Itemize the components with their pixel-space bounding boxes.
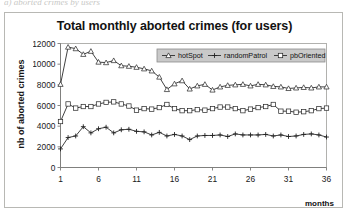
- data-point-marker: [119, 127, 124, 132]
- legend-label-pbOriented[interactable]: pbOriented: [290, 51, 326, 60]
- y-tick-label: 4000: [37, 121, 56, 131]
- data-point-marker: [89, 104, 93, 108]
- data-point-marker: [127, 104, 131, 108]
- series-randomPatrol: [58, 124, 329, 151]
- data-point-marker: [172, 106, 176, 110]
- data-point-marker: [210, 133, 215, 138]
- y-tick-label: 12000: [33, 39, 56, 49]
- x-tick-label: 16: [170, 174, 180, 184]
- data-point-marker: [286, 109, 290, 113]
- data-point-marker: [256, 133, 261, 138]
- data-point-marker: [58, 119, 62, 123]
- legend-label-hotSpot[interactable]: hotSpot: [178, 51, 203, 60]
- data-point-marker: [241, 108, 245, 112]
- x-tick-label: 31: [284, 174, 294, 184]
- x-tick-label: 11: [132, 174, 141, 184]
- data-point-marker: [188, 108, 192, 112]
- data-point-marker: [294, 134, 299, 139]
- data-point-marker: [302, 110, 306, 114]
- y-tick-label: 6000: [37, 101, 56, 111]
- data-point-marker: [157, 105, 161, 109]
- data-point-marker: [96, 126, 101, 131]
- data-point-marker: [218, 133, 223, 138]
- data-point-marker: [74, 106, 78, 110]
- data-point-marker: [172, 132, 177, 137]
- data-point-marker: [195, 107, 199, 111]
- data-point-marker: [180, 134, 185, 139]
- data-point-marker: [256, 105, 260, 109]
- data-point-marker: [210, 106, 214, 110]
- data-point-marker: [324, 106, 328, 110]
- y-tick-label: 0: [51, 163, 56, 173]
- data-point-marker: [149, 133, 154, 138]
- data-point-marker: [317, 133, 322, 138]
- data-point-marker: [218, 105, 222, 109]
- data-point-marker: [66, 102, 70, 106]
- data-point-marker: [226, 105, 230, 109]
- data-point-marker: [88, 49, 93, 54]
- series-pbOriented: [58, 100, 328, 124]
- data-point-marker: [279, 109, 283, 113]
- y-tick-label: 2000: [37, 142, 56, 152]
- data-point-marker: [195, 134, 200, 139]
- data-point-marker: [134, 129, 139, 134]
- data-point-marker: [58, 82, 63, 87]
- data-point-marker: [203, 133, 208, 138]
- x-tick-label: 36: [322, 174, 332, 184]
- plot-svg: 020004000600080001000012000 161116212631…: [33, 39, 336, 191]
- x-tick-label: 6: [96, 174, 101, 184]
- data-point-marker: [165, 102, 169, 106]
- legend-marker-pbOriented: [278, 53, 282, 57]
- data-point-marker: [96, 102, 100, 106]
- data-point-marker: [157, 130, 162, 135]
- data-point-marker: [66, 135, 71, 140]
- x-axis-unit-label: months: [305, 199, 334, 208]
- chart-page: a) aborted crimes by users Total monthly…: [0, 0, 351, 214]
- figure-caption: a) aborted crimes by users: [4, 0, 184, 9]
- data-point-marker: [324, 135, 329, 140]
- data-point-marker: [104, 100, 108, 104]
- data-point-marker: [241, 133, 246, 138]
- x-tick-labels: 16111621263136: [58, 174, 331, 184]
- chart-frame: Total monthly aborted crimes (for users)…: [4, 12, 343, 208]
- data-point-marker: [233, 106, 237, 110]
- legend-label-randomPatrol[interactable]: randomPatrol: [224, 51, 268, 60]
- data-point-marker: [203, 108, 207, 112]
- data-point-marker: [271, 134, 276, 139]
- data-point-marker: [279, 133, 284, 138]
- chart-title: Total monthly aborted crimes (for users): [5, 19, 344, 33]
- data-point-marker: [142, 129, 147, 134]
- data-point-marker: [248, 133, 253, 138]
- data-point-marker: [309, 108, 313, 112]
- data-point-marker: [81, 104, 85, 108]
- x-tick-label: 26: [246, 174, 256, 184]
- y-tick-labels: 020004000600080001000012000: [33, 39, 56, 173]
- data-point-marker: [111, 58, 116, 63]
- data-point-marker: [286, 134, 291, 139]
- x-tick-label: 1: [58, 174, 63, 184]
- data-point-marker: [264, 104, 268, 108]
- data-point-marker: [127, 127, 132, 132]
- plot-area: 020004000600080001000012000 161116212631…: [33, 39, 336, 191]
- y-tick-label: 8000: [37, 80, 56, 90]
- data-point-marker: [112, 100, 116, 104]
- y-axis-title: nb of aborted crimes: [16, 54, 26, 154]
- data-point-marker: [180, 78, 185, 83]
- data-point-marker: [202, 82, 207, 87]
- data-point-marker: [317, 106, 321, 110]
- data-point-marker: [187, 137, 192, 142]
- data-point-marker: [134, 108, 138, 112]
- data-point-marker: [180, 108, 184, 112]
- data-point-marker: [263, 132, 268, 137]
- data-point-marker: [278, 53, 282, 57]
- x-tick-label: 21: [208, 174, 218, 184]
- data-point-marker: [165, 134, 170, 139]
- data-point-marker: [294, 110, 298, 114]
- series-line: [61, 127, 327, 149]
- data-point-marker: [225, 134, 230, 139]
- data-point-marker: [248, 107, 252, 111]
- data-point-marker: [142, 106, 146, 110]
- y-tick-label: 10000: [33, 59, 56, 69]
- data-point-marker: [150, 107, 154, 111]
- chart-legend[interactable]: hotSpotrandomPatrolpbOriented: [157, 49, 326, 62]
